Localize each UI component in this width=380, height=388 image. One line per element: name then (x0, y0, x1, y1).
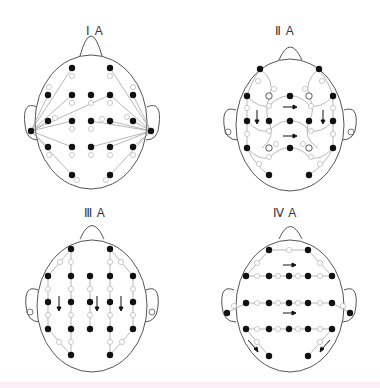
head-outline (236, 59, 344, 191)
nose-icon (80, 226, 104, 240)
head-diagram (190, 194, 380, 388)
bottom-band (0, 382, 380, 388)
left-ear-marker-icon (27, 309, 33, 315)
nose-icon (279, 47, 302, 60)
nose-icon (80, 36, 102, 56)
head-diagram (190, 0, 380, 194)
head-diagram (0, 194, 190, 388)
right-ear-marker-icon (149, 309, 155, 315)
panel-ia: Ⅰ A (0, 0, 190, 194)
right-ear-icon (146, 105, 160, 140)
nose-icon (279, 227, 302, 240)
right-ear-marker-icon (348, 129, 354, 135)
head-outline (37, 240, 147, 372)
panel-iia: Ⅱ A (190, 0, 380, 194)
head-diagram (0, 0, 190, 194)
panel-iiia: Ⅲ A (0, 194, 190, 388)
panel-iva: Ⅳ A (190, 194, 380, 388)
